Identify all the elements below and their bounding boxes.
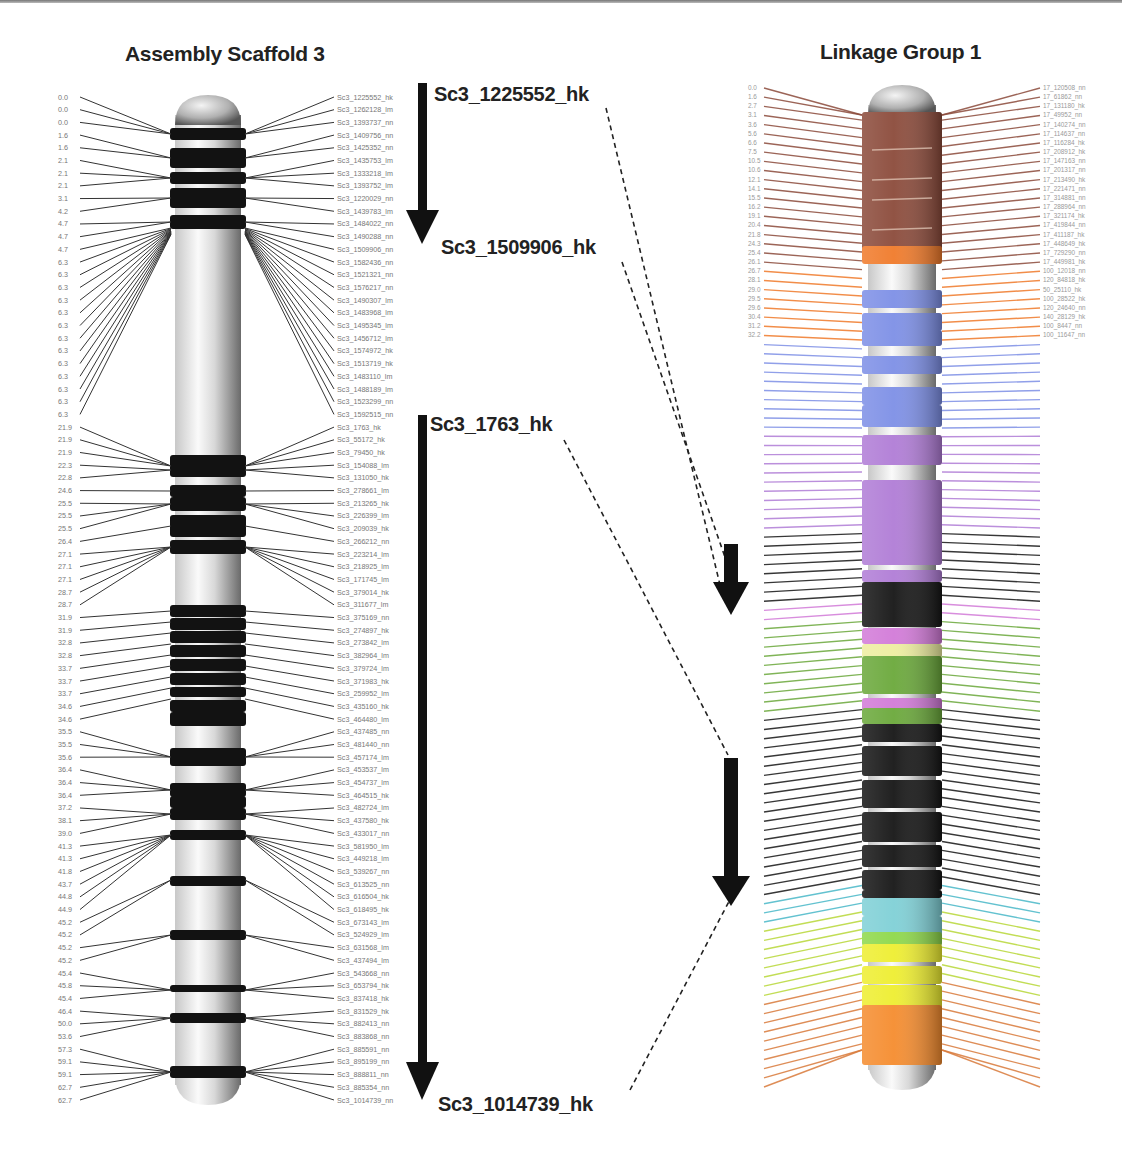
dashed-connector (630, 890, 735, 1090)
scaffold-position: 6.3 (58, 372, 68, 381)
scaffold-position: 2.1 (58, 169, 68, 178)
scaffold-marker: Sc3_1014739_nn (337, 1096, 393, 1105)
scaffold-marker: Sc3_1393752_lm (337, 181, 393, 190)
scaffold-marker: Sc3_1490288_nn (337, 232, 393, 241)
scaffold-position: 6.3 (58, 410, 68, 419)
scaffold-band (170, 712, 246, 726)
scaffold-position: 41.3 (58, 854, 72, 863)
scaffold-band (170, 985, 246, 992)
scaffold-band (170, 687, 246, 697)
chromosome-map: 0.0Sc3_1225552_hk0.0Sc3_1262128_lm0.0Sc3… (0, 0, 1122, 1157)
scaffold-position: 4.7 (58, 219, 68, 228)
linkage-marker: 17_419844_nn (1043, 221, 1086, 229)
arrow-down-icon (712, 876, 750, 906)
scaffold-position: 45.4 (58, 994, 72, 1003)
scaffold-position: 45.2 (58, 956, 72, 965)
scaffold-marker: Sc3_1576217_nn (337, 283, 393, 292)
scaffold-position: 32.8 (58, 651, 72, 660)
scaffold-marker: Sc3_437580_hk (337, 816, 389, 825)
linkage-position: 25.4 (748, 249, 761, 256)
linkage-marker: 17_61862_nn (1043, 93, 1083, 101)
scaffold-position: 26.4 (58, 537, 72, 546)
scaffold-position: 3.1 (58, 194, 68, 203)
linkage-marker: 17_314881_nn (1043, 194, 1086, 202)
scaffold-marker: Sc3_274897_hk (337, 626, 389, 635)
linkage-marker: 17_448649_hk (1043, 240, 1086, 248)
scaffold-position: 33.7 (58, 677, 72, 686)
scaffold-position: 32.8 (58, 638, 72, 647)
linkage-position: 30.4 (748, 313, 761, 320)
scaffold-marker: Sc3_616504_hk (337, 892, 389, 901)
linkage-position: 10.5 (748, 157, 761, 164)
scaffold-marker: Sc3_613525_nn (337, 880, 389, 889)
scaffold-position: 34.6 (58, 702, 72, 711)
scaffold-band (170, 515, 246, 537)
scaffold-band (170, 808, 246, 820)
linkage-position: 14.1 (748, 185, 761, 192)
scaffold-position: 34.6 (58, 715, 72, 724)
scaffold-band (170, 876, 246, 886)
marker-label-sc3-1225552: Sc3_1225552_hk (434, 83, 589, 106)
scaffold-marker: Sc3_382964_lm (337, 651, 389, 660)
scaffold-position: 37.2 (58, 803, 72, 812)
scaffold-marker: Sc3_311677_lm (337, 600, 388, 609)
scaffold-position: 24.6 (58, 486, 72, 495)
linkage-position: 10.6 (748, 166, 761, 173)
marker-label-sc3-1509906: Sc3_1509906_hk (441, 236, 596, 259)
scaffold-position: 45.2 (58, 930, 72, 939)
scaffold-position: 38.1 (58, 816, 72, 825)
scaffold-band (170, 605, 246, 617)
scaffold-position: 0.0 (58, 118, 68, 127)
linkage-marker: 50_25110_hk (1043, 286, 1082, 294)
scaffold-marker: Sc3_1488189_lm (337, 385, 393, 394)
dashed-connector (606, 108, 720, 585)
scaffold-position: 31.9 (58, 613, 72, 622)
dashed-connector (564, 440, 728, 755)
scaffold-marker: Sc3_154088_lm (337, 461, 389, 470)
linkage-position: 1.6 (748, 93, 757, 100)
scaffold-position: 50.0 (58, 1019, 72, 1028)
scaffold-position: 21.9 (58, 435, 72, 444)
scaffold-band (170, 497, 246, 511)
linkage-position: 31.2 (748, 322, 761, 329)
scaffold-position: 43.7 (58, 880, 72, 889)
scaffold-band (170, 930, 246, 940)
scaffold-position: 27.1 (58, 550, 72, 559)
scaffold-marker: Sc3_278661_lm (337, 486, 389, 495)
scaffold-position: 6.3 (58, 359, 68, 368)
scaffold-position: 6.3 (58, 296, 68, 305)
scaffold-position: 28.7 (58, 588, 72, 597)
scaffold-position: 35.5 (58, 727, 72, 736)
scaffold-position: 62.7 (58, 1096, 72, 1105)
linkage-position: 21.8 (748, 231, 761, 238)
scaffold-position: 2.1 (58, 156, 68, 165)
scaffold-marker: Sc3_883868_nn (337, 1032, 389, 1041)
scaffold-position: 41.8 (58, 867, 72, 876)
scaffold-position: 27.1 (58, 562, 72, 571)
scaffold-marker: Sc3_453537_lm (337, 765, 389, 774)
arrow-down-icon (713, 582, 749, 615)
linkage-position: 19.1 (748, 212, 761, 219)
scaffold-marker: Sc3_1513719_hk (337, 359, 393, 368)
scaffold-marker: Sc3_1220029_nn (337, 194, 393, 203)
scaffold-band (170, 1066, 246, 1078)
scaffold-band (170, 215, 246, 229)
scaffold-position: 6.3 (58, 258, 68, 267)
scaffold-position: 4.7 (58, 245, 68, 254)
scaffold-marker: Sc3_449218_lm (337, 854, 389, 863)
linkage-position: 7.5 (748, 148, 757, 155)
scaffold-marker: Sc3_218925_lm (337, 562, 389, 571)
scaffold-marker: Sc3_464480_lm (337, 715, 389, 724)
scaffold-band (170, 783, 246, 797)
linkage-marker: 17_449981_hk (1043, 258, 1086, 266)
linkage-position: 0.0 (748, 84, 757, 91)
linkage-marker: 17_147163_nn (1043, 157, 1086, 165)
scaffold-position: 41.3 (58, 842, 72, 851)
scaffold-position: 6.3 (58, 270, 68, 279)
scaffold-band (170, 148, 246, 168)
scaffold-position: 25.5 (58, 524, 72, 533)
scaffold-position: 6.3 (58, 308, 68, 317)
linkage-marker: 17_208912_hk (1043, 148, 1086, 156)
linkage-marker: 17_729290_nn (1043, 249, 1086, 257)
linkage-position: 2.7 (748, 102, 757, 109)
